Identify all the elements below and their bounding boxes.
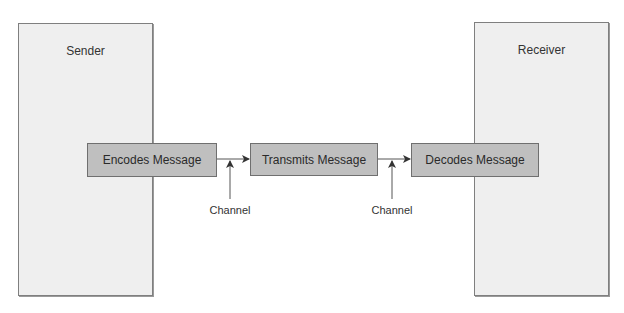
decodes-message-label: Decodes Message	[425, 153, 524, 167]
decodes-message-box: Decodes Message	[411, 143, 539, 177]
receiver-label: Receiver	[475, 43, 608, 57]
channel-label-1: Channel	[200, 204, 260, 216]
sender-label: Sender	[19, 44, 152, 58]
transmits-message-box: Transmits Message	[250, 143, 378, 176]
encodes-message-box: Encodes Message	[87, 143, 217, 177]
transmits-message-label: Transmits Message	[262, 153, 366, 167]
encodes-message-label: Encodes Message	[103, 153, 202, 167]
channel-label-2: Channel	[362, 204, 422, 216]
